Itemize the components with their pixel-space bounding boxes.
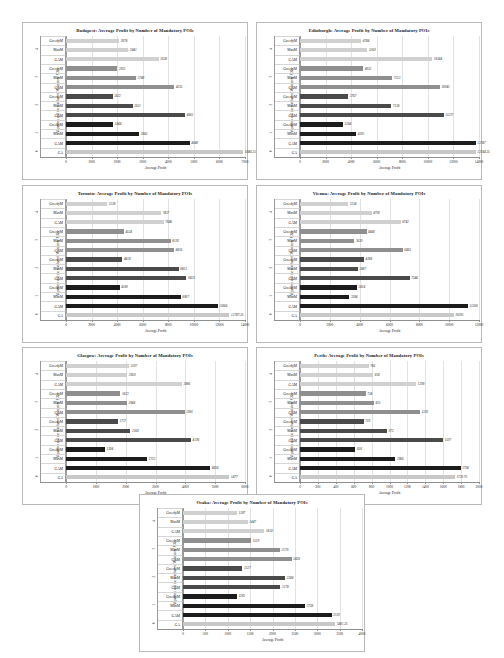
bar-cell: 3364: [300, 120, 479, 129]
bar-gam: [183, 557, 292, 561]
group-index-label: 2: [269, 426, 273, 434]
bar-value-label: 766: [370, 364, 375, 368]
bar-maxm: [183, 520, 248, 524]
x-tick: [219, 320, 220, 322]
bar-greedym: [66, 229, 124, 233]
chart-row: GreedyM1207: [157, 508, 362, 517]
x-tick: [453, 157, 454, 159]
chart-title-city: Toronto:: [78, 191, 96, 196]
bar-value-label: 7646: [165, 220, 172, 224]
chart-title-rest: Average Profit by Number of Mandatory PO…: [333, 28, 430, 33]
x-tick: [185, 482, 186, 484]
chart-row: GAM3319: [157, 610, 362, 619]
bar-greedym: [66, 447, 105, 451]
x-tick: [317, 629, 318, 631]
bar-cell: 1519: [183, 536, 362, 545]
bar-cell: 3401.25: [183, 620, 362, 629]
chart-row: MaxM5269: [274, 45, 479, 54]
bar-greedym: [66, 122, 113, 126]
bar-gam: [66, 304, 218, 308]
chart-row: GreedyM1327: [157, 564, 362, 573]
x-tick-label: 1500: [247, 632, 254, 636]
bar-gam: [66, 85, 174, 89]
x-tick-label: 1400: [422, 485, 429, 489]
chart-title-rest: Average Profit by Number of Mandatory PO…: [327, 353, 424, 358]
bar-cell: 2107: [66, 361, 245, 370]
bar-greedym: [300, 122, 343, 126]
bar-gam: [300, 438, 443, 442]
row-category-label: GAM: [157, 527, 183, 536]
group-index-label: 1: [152, 601, 156, 609]
bar-greedym: [66, 66, 117, 70]
chart-row: GAM1794: [274, 463, 479, 472]
x-tick-label: 2000: [476, 485, 483, 489]
bar-value-label: 4460: [368, 230, 375, 234]
bar-gam: [300, 410, 420, 414]
chart-row: MaxM2044: [40, 398, 245, 407]
row-category-label: GAM: [40, 218, 66, 227]
x-tick: [168, 157, 169, 159]
bar-cell: 1818: [183, 527, 362, 536]
row-category-label: GreedyM: [274, 120, 300, 129]
bar-cell: 7213: [300, 73, 479, 82]
bar-cell: 1822: [66, 92, 245, 101]
bar-cell: 2044: [66, 398, 245, 407]
bar-value-label: 2441: [130, 48, 137, 52]
bar-value-label: 2107: [130, 364, 137, 368]
row-category-label: GreedyM: [274, 199, 300, 208]
x-tick: [390, 320, 391, 322]
x-tick-label: 6000: [139, 323, 146, 327]
x-tick-label: 10000: [424, 160, 432, 164]
x-tick-label: 2000: [326, 323, 333, 327]
group-index-label: 3: [35, 398, 39, 406]
bar-cell: 3304: [300, 292, 479, 301]
x-tick-label: 1200: [404, 485, 411, 489]
x-tick: [318, 482, 319, 484]
bar-cell: 4799: [300, 208, 479, 217]
bar-value-label: 7344: [411, 276, 418, 280]
bar-cell: 1794: [300, 463, 479, 472]
group-index-label: 4: [269, 208, 273, 216]
bar-gam: [300, 85, 440, 89]
bar-greedym: [300, 391, 366, 395]
x-tick-label: 4000: [359, 632, 366, 636]
row-category-label: GreedyM: [274, 361, 300, 370]
row-category-label: GAM: [40, 273, 66, 282]
x-tick-label: 12000: [215, 323, 223, 327]
bar-maxm: [300, 401, 374, 405]
chart-title-glasgow: Glasgow: Average Profit by Number of Man…: [23, 353, 247, 358]
bar-gam: [300, 382, 416, 386]
bar-value-label: 818: [375, 373, 380, 377]
bar-cell: 4524: [66, 227, 245, 236]
bar-value-label: 2865: [141, 132, 148, 136]
row-category-label: MaxM: [40, 426, 66, 435]
bar-value-label: 1066: [397, 457, 404, 461]
bar-value-label: 3886: [184, 382, 191, 386]
bar-value-label: 10941: [441, 85, 449, 89]
x-tick-label: 14000: [241, 323, 249, 327]
row-category-label: GA: [274, 473, 300, 482]
bar-cell: 1203: [183, 592, 362, 601]
bar-value-label: 6882: [404, 248, 411, 252]
x-tick-label: 2000: [114, 160, 121, 164]
bar-value-label: 1822: [114, 94, 121, 98]
row-category-label: MaxM: [40, 129, 66, 138]
bar-value-label: 3981: [186, 410, 193, 414]
category-column-border: [274, 36, 275, 157]
bar-value-label: 4932: [365, 67, 372, 71]
x-tick-label: 1000: [92, 485, 99, 489]
bar-gam: [183, 529, 264, 533]
chart-row: GAM7344: [274, 273, 479, 282]
row-category-label: GAM: [274, 435, 300, 444]
bar-cell: 3628: [66, 55, 245, 64]
x-tick: [273, 629, 274, 631]
bar-cell: 2728: [183, 601, 362, 610]
chart-row: MaxM3304: [274, 292, 479, 301]
bar-maxm: [66, 457, 147, 461]
chart-row: GreedyM4932: [274, 64, 479, 73]
bar-greedym: [66, 202, 107, 206]
chart-row: GreedyM2107: [40, 361, 245, 370]
x-tick: [126, 482, 127, 484]
group-index-label: 3: [269, 236, 273, 244]
x-tick-label: 3000: [139, 160, 146, 164]
